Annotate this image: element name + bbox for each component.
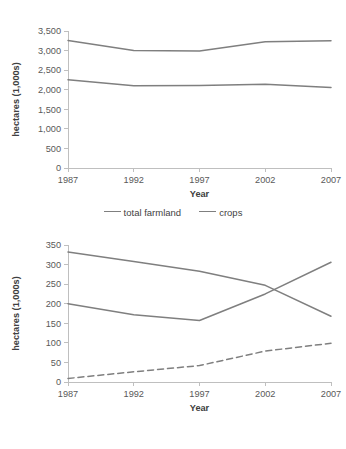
y-tick-label: 3,000: [38, 46, 61, 56]
series-line-crops: [68, 80, 331, 88]
x-tick-label: 1987: [58, 175, 78, 185]
chart-top-svg: 05001,0001,5002,0002,5003,0003,500198719…: [0, 0, 346, 200]
y-tick-label: 2,000: [38, 85, 61, 95]
x-tick-label: 1992: [124, 389, 144, 399]
y-tick-label: 3,500: [38, 26, 61, 36]
legend-label: total farmland: [124, 207, 182, 218]
chart-bottom-plot-area: 0501001502002503003501987199219972002200…: [0, 228, 346, 423]
series-line-total-farmland: [68, 40, 331, 51]
y-tick-label: 2,500: [38, 65, 61, 75]
legend-item-total-farmland[interactable]: total farmland: [104, 206, 182, 218]
y-axis-title: hectares (1,000s): [11, 276, 21, 351]
y-tick-label: 1,500: [38, 105, 61, 115]
y-tick-label: 100: [46, 338, 61, 348]
x-tick-label: 1997: [189, 389, 209, 399]
chart-figure-bottom: 0501001502002503003501987199219972002200…: [0, 228, 346, 449]
y-tick-label: 500: [46, 144, 61, 154]
x-tick-label: 2002: [255, 389, 275, 399]
x-tick-label: 1987: [58, 389, 78, 399]
legend-swatch-crops-icon: [199, 211, 216, 212]
y-tick-label: 0: [56, 163, 61, 173]
x-tick-label: 2007: [321, 175, 341, 185]
legend-label: crops: [219, 207, 242, 218]
y-tick-label: 150: [46, 319, 61, 329]
y-tick-label: 300: [46, 260, 61, 270]
y-tick-label: 0: [56, 377, 61, 387]
legend-swatch-total-farmland-icon: [104, 211, 121, 212]
x-tick-label: 1992: [124, 175, 144, 185]
x-axis-title: Year: [190, 403, 210, 413]
y-tick-label: 1,000: [38, 124, 61, 134]
y-tick-label: 250: [46, 279, 61, 289]
y-tick-label: 50: [51, 358, 61, 368]
chart-top-legend: total farmlandcrops: [0, 206, 346, 218]
x-axis-title: Year: [190, 189, 210, 199]
series-line-conservation-cover: [68, 343, 331, 378]
x-tick-label: 2002: [255, 175, 275, 185]
chart-top-plot-area: 05001,0001,5002,0002,5003,0003,500198719…: [0, 0, 346, 200]
y-tick-label: 200: [46, 299, 61, 309]
series-line-grazed-crops: [68, 252, 331, 316]
chart-figure-top: 05001,0001,5002,0002,5003,0003,500198719…: [0, 0, 346, 228]
x-tick-label: 2007: [321, 389, 341, 399]
y-axis-title: hectares (1,000s): [11, 62, 21, 137]
y-tick-label: 350: [46, 240, 61, 250]
legend-item-crops[interactable]: crops: [199, 206, 242, 218]
chart-bottom-svg: 0501001502002503003501987199219972002200…: [0, 228, 346, 423]
x-tick-label: 1997: [189, 175, 209, 185]
